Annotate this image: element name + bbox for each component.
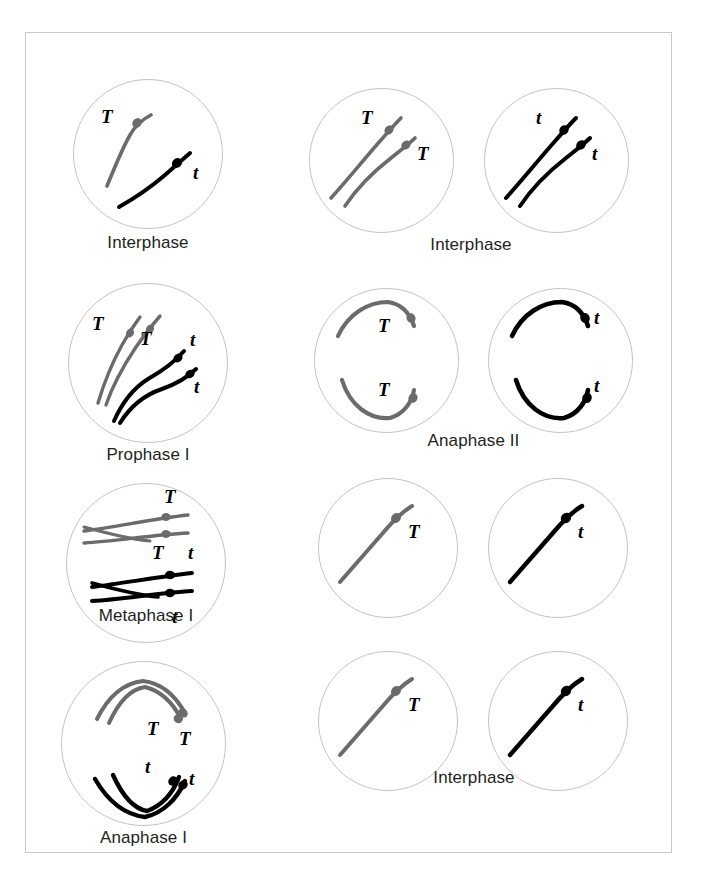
stage-label-anaphase-1: Anaphase I [61, 828, 226, 848]
stage-label-prophase-1: Prophase I [68, 445, 228, 465]
allele-label-t-1: t [145, 756, 151, 777]
allele-label-t-2: t [194, 376, 200, 397]
allele-label-T: T [101, 106, 114, 127]
chromatid-t-cross [92, 583, 158, 597]
chromosomes-interphase-final-T1: T [318, 478, 458, 618]
allele-label-t-lower: t [594, 375, 600, 396]
cell-group-interphase-right-T: T T [309, 88, 454, 233]
stage-label-interphase-final: Interphase [389, 768, 559, 788]
allele-label-t-1: t [536, 107, 542, 128]
allele-label-t-1: t [190, 329, 196, 350]
chromosomes-interphase-final-t1: t [488, 478, 628, 618]
allele-label-T: T [408, 694, 421, 715]
chromosomes-anaphase-2-T: T T [314, 288, 459, 433]
cell-group-anaphase-2-t: t t [488, 288, 633, 433]
chromosomes-anaphase-2-t: t t [488, 288, 633, 433]
allele-label-T-2: T [152, 542, 165, 563]
chromatid-t-1 [92, 573, 192, 587]
chromatid-T-1 [84, 515, 188, 531]
chromatid-T-upper [338, 302, 414, 336]
allele-label-T-2: T [179, 728, 192, 749]
centromere-T-1 [161, 513, 170, 521]
allele-label-T: T [408, 521, 421, 542]
allele-label-T-1: T [361, 107, 374, 128]
chromatid-t-lower [516, 380, 588, 418]
allele-label-t-1: t [188, 542, 194, 563]
centromere-t-2 [165, 589, 175, 597]
allele-label-T-upper: T [378, 315, 391, 336]
cell-group-anaphase-1: T T t t [61, 661, 226, 826]
chromosomes-interphase-right-t: t t [484, 88, 629, 233]
centromere-t-1 [165, 571, 175, 579]
allele-label-T-1: T [147, 718, 160, 739]
cell-group-prophase-1: T T t t [68, 283, 228, 443]
stage-label-interphase-left: Interphase [73, 233, 223, 253]
allele-label-T-lower: T [378, 379, 391, 400]
allele-label-t-2: t [189, 768, 195, 789]
cell-group-interphase-final-T1: T [318, 478, 458, 618]
allele-label-T-2: T [140, 328, 153, 349]
chromosomes-interphase-left: T t [73, 79, 223, 229]
chromatid-T [340, 506, 412, 582]
cell-group-anaphase-2-T: T T [314, 288, 459, 433]
stage-label-anaphase-2: Anaphase II [386, 431, 561, 451]
stage-label-metaphase-1: Metaphase I [66, 606, 226, 626]
chromatid-T [340, 679, 412, 755]
chromosomes-anaphase-1: T T t t [61, 661, 226, 826]
allele-label-t: t [578, 694, 584, 715]
chromosome-T-gray [107, 115, 151, 186]
allele-label-T-1: T [164, 486, 177, 507]
cell-group-interphase-right-t: t t [484, 88, 629, 233]
allele-label-T-1: T [92, 313, 105, 334]
allele-label-t-upper: t [594, 307, 600, 328]
figure-frame: T t Interphase T T t t Prophase I [25, 32, 672, 853]
allele-label-t: t [193, 162, 199, 183]
stage-label-interphase-right: Interphase [386, 235, 556, 255]
allele-label-t-2: t [592, 143, 598, 164]
allele-label-t: t [578, 521, 584, 542]
chromosomes-interphase-right-T: T T [309, 88, 454, 233]
chromatid-t-upper [512, 302, 588, 336]
cell-group-interphase-left: T t [73, 79, 223, 229]
cell-group-interphase-final-t1: t [488, 478, 628, 618]
centromere-T-2 [161, 530, 170, 538]
chromosomes-prophase-1: T T t t [68, 283, 228, 443]
allele-label-T-2: T [417, 143, 430, 164]
